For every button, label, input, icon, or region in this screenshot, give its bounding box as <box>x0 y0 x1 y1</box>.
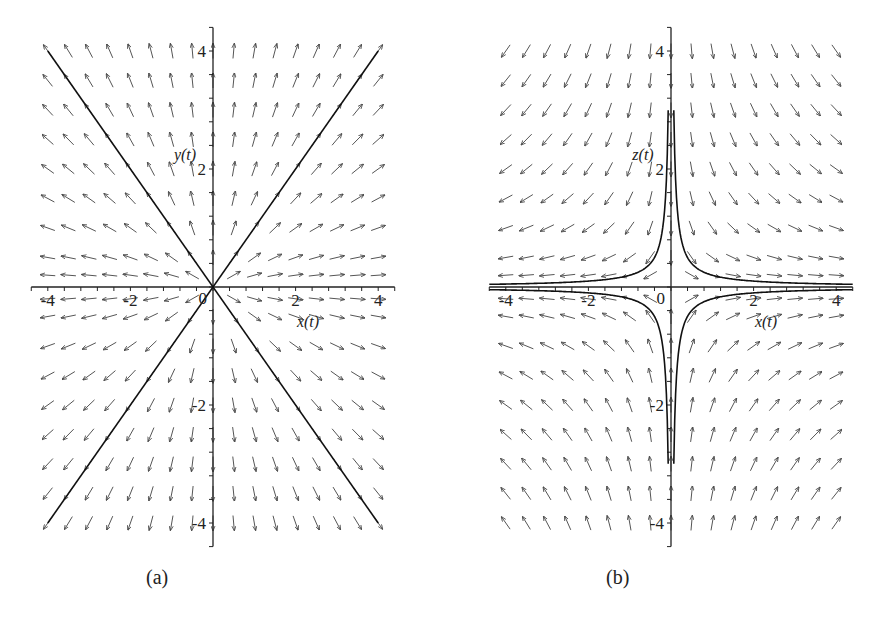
field-arrow <box>271 398 278 411</box>
field-arrow <box>170 132 174 146</box>
field-arrow <box>501 105 511 116</box>
panel-a-plot: -4-22442-2-40x(t)y(t) <box>31 27 394 546</box>
field-arrow <box>63 400 75 409</box>
field-arrow <box>351 225 365 231</box>
field-arrow <box>767 255 781 259</box>
field-arrow <box>501 45 510 57</box>
field-arrow <box>288 274 303 276</box>
field-arrow <box>542 134 552 145</box>
field-arrow <box>233 457 235 472</box>
field-arrow <box>373 459 383 470</box>
field-arrow <box>522 458 531 470</box>
field-arrow <box>628 457 631 472</box>
field-arrow <box>831 459 841 470</box>
field-arrow <box>726 313 740 319</box>
field-arrow <box>166 253 178 262</box>
field-arrow <box>585 133 592 146</box>
field-arrow <box>149 457 154 471</box>
field-arrow <box>169 398 174 412</box>
field-arrow <box>830 401 842 410</box>
field-arrow <box>232 398 235 413</box>
field-arrow <box>691 486 692 501</box>
field-arrow <box>272 103 277 117</box>
field-arrow <box>312 458 320 471</box>
field-arrow <box>808 298 823 299</box>
field-arrow <box>107 516 113 530</box>
field-arrow <box>86 44 93 57</box>
field-arrow <box>584 399 593 411</box>
field-arrow <box>63 429 73 440</box>
field-arrow <box>607 516 611 531</box>
field-arrow <box>125 370 135 381</box>
field-arrow <box>583 370 593 381</box>
field-arrow <box>829 315 844 318</box>
field-arrow <box>309 255 323 259</box>
field-arrow <box>42 430 53 440</box>
field-arrow <box>768 224 781 231</box>
field-arrow <box>729 192 738 204</box>
field-arrow <box>330 225 344 231</box>
field-arrow <box>812 45 820 58</box>
field-arrow <box>127 103 133 117</box>
field-arrow <box>500 401 512 410</box>
field-arrow <box>170 44 173 59</box>
field-arrow <box>584 163 593 175</box>
field-arrow <box>810 429 820 440</box>
field-arrow <box>248 253 260 262</box>
trajectory-hyperbola <box>489 290 668 464</box>
field-arrow <box>709 369 715 383</box>
field-arrow <box>329 298 344 299</box>
y-tick-label: 2 <box>656 160 665 179</box>
field-arrow <box>788 343 802 349</box>
field-arrow <box>770 133 779 145</box>
field-arrow <box>104 371 115 381</box>
field-arrow <box>706 312 718 321</box>
field-arrow <box>586 487 592 501</box>
field-arrow <box>685 295 698 302</box>
field-arrow <box>586 44 591 58</box>
field-arrow <box>687 251 696 263</box>
y-tick-label: 4 <box>198 42 207 61</box>
field-arrow <box>500 165 512 174</box>
field-arrow <box>787 298 802 299</box>
panel-b-plot: -4-22442-2-40x(t)z(t) <box>489 27 852 546</box>
field-arrow <box>832 75 841 87</box>
field-arrow <box>166 312 178 321</box>
field-arrow <box>787 274 802 275</box>
field-arrow <box>829 225 843 230</box>
field-arrow <box>561 314 575 318</box>
field-arrow <box>123 255 137 260</box>
field-arrow <box>106 458 114 471</box>
field-arrow <box>233 103 235 118</box>
field-arrow <box>106 487 113 500</box>
field-arrow <box>520 372 533 380</box>
field-arrow <box>726 297 741 300</box>
field-arrow <box>810 400 822 409</box>
field-arrow <box>191 162 194 177</box>
field-arrow <box>543 487 551 500</box>
field-arrow <box>102 298 117 300</box>
field-arrow <box>148 133 154 147</box>
field-arrow <box>253 44 256 59</box>
field-arrow <box>522 74 531 86</box>
field-arrow <box>771 487 778 500</box>
field-arrow <box>268 313 282 319</box>
field-arrow <box>628 516 631 531</box>
field-arrow <box>253 486 256 501</box>
field-arrow <box>728 341 739 351</box>
field-arrow <box>65 45 73 58</box>
field-arrow <box>373 105 383 116</box>
field-arrow <box>607 486 611 500</box>
field-arrow <box>540 256 555 259</box>
field-arrow <box>103 342 116 349</box>
field-arrow <box>520 195 533 203</box>
field-arrow <box>543 104 552 116</box>
field-arrow <box>273 516 277 531</box>
field-arrow <box>602 254 616 260</box>
field-arrow <box>748 370 758 381</box>
field-arrow <box>809 195 822 203</box>
field-arrow <box>104 194 115 204</box>
field-arrow <box>41 195 54 202</box>
field-arrow <box>829 256 844 259</box>
field-arrow <box>731 486 735 500</box>
